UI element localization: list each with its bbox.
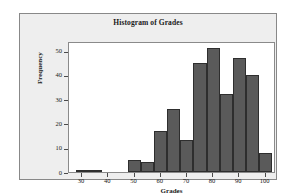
y-axis-tick-label-text: 30 xyxy=(42,97,62,104)
histogram-bar xyxy=(193,63,206,172)
histogram-bar xyxy=(259,153,272,172)
y-axis-tick-label: 30 xyxy=(38,97,62,104)
y-axis-tick-label: 40 xyxy=(38,72,62,79)
x-axis-tick-label: 60 xyxy=(150,178,170,186)
plot-frame xyxy=(68,42,275,173)
y-axis-tick-label-text: 40 xyxy=(42,72,62,79)
y-axis-tick-label: 0 xyxy=(38,170,62,177)
histogram-bar xyxy=(89,170,102,172)
y-axis-tick-label-text: 10 xyxy=(42,145,62,152)
x-axis-tick-label-text: 40 xyxy=(97,178,117,185)
chart-panel: Histogram of Grades Frequency Grades 010… xyxy=(19,13,277,180)
histogram-bar xyxy=(141,162,154,172)
histogram-bar xyxy=(180,140,193,172)
histogram-bar xyxy=(76,170,89,172)
histogram-bar xyxy=(233,58,246,172)
x-axis-tick-label-text: 50 xyxy=(124,178,144,185)
histogram-bar xyxy=(154,131,167,172)
histogram-bar xyxy=(207,48,220,172)
x-axis-tick-label: 100 xyxy=(255,178,275,186)
y-axis-tick-label-text: 0 xyxy=(42,170,62,177)
x-axis-tick-label: 40 xyxy=(97,178,117,186)
y-axis-tick xyxy=(64,173,68,174)
x-axis-tick-label-text: 100 xyxy=(255,178,275,185)
chart-title: Histogram of Grades xyxy=(20,18,276,27)
x-axis-tick-label: 80 xyxy=(202,178,222,186)
y-axis-tick-label-text: 20 xyxy=(42,121,62,128)
x-axis-tick-label: 90 xyxy=(228,178,248,186)
histogram-bar xyxy=(220,94,233,172)
x-axis-tick-label: 30 xyxy=(71,178,91,186)
y-axis-tick-label-text: 50 xyxy=(42,48,62,55)
x-axis-tick-label: 70 xyxy=(176,178,196,186)
y-axis-tick-label: 10 xyxy=(38,145,62,152)
x-axis-tick-label-text: 30 xyxy=(71,178,91,185)
x-axis-tick-label-text: 70 xyxy=(176,178,196,185)
plot-area xyxy=(69,43,274,172)
histogram-bar xyxy=(167,109,180,172)
y-axis-tick-label: 20 xyxy=(38,121,62,128)
x-axis-tick-label-text: 80 xyxy=(202,178,222,185)
x-axis-title: Grades xyxy=(68,187,275,194)
x-axis-tick-label-text: 60 xyxy=(150,178,170,185)
x-axis-tick-label-text: 90 xyxy=(228,178,248,185)
x-axis-tick-label: 50 xyxy=(124,178,144,186)
histogram-bar xyxy=(128,160,141,172)
y-axis-tick-label: 50 xyxy=(38,48,62,55)
histogram-figure: Histogram of Grades Frequency Grades 010… xyxy=(0,0,298,194)
histogram-bar xyxy=(246,75,259,172)
